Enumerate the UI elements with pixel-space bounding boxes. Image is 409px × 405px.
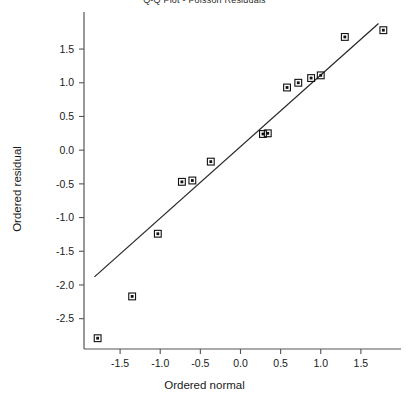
y-tick-label: -1.5 <box>56 245 74 257</box>
data-point-marker <box>380 27 387 34</box>
qq-reference-line <box>94 23 378 276</box>
y-tick-label: 1.0 <box>59 76 74 88</box>
data-point-marker <box>179 178 186 185</box>
x-tick-label: 1.0 <box>313 357 328 369</box>
x-tick-label: 0.5 <box>273 357 288 369</box>
tick-marks <box>79 49 361 354</box>
y-axis-label: Ordered residual <box>11 109 23 269</box>
reference-line <box>94 23 378 276</box>
plot-canvas: -1.5-1.0-0.50.00.51.01.51.51.00.50.0-0.5… <box>0 0 409 405</box>
axes <box>84 12 401 349</box>
y-tick-label: -2.0 <box>56 279 74 291</box>
y-tick-label: -0.5 <box>56 178 74 190</box>
y-tick-label: -1.0 <box>56 211 74 223</box>
data-point-marker <box>284 84 291 91</box>
x-tick-label: -0.5 <box>191 357 209 369</box>
x-axis-label: Ordered normal <box>0 379 409 391</box>
data-point-marker <box>129 293 136 300</box>
data-point-marker <box>295 79 302 86</box>
y-tick-label: 0.0 <box>59 144 74 156</box>
data-point-marker <box>308 75 315 82</box>
x-tick-label: -1.0 <box>151 357 169 369</box>
data-point-marker <box>207 158 214 165</box>
y-tick-label: -2.5 <box>56 312 74 324</box>
x-tick-label: 0.0 <box>233 357 248 369</box>
y-tick-label: 0.5 <box>59 110 74 122</box>
data-point-marker <box>94 335 101 342</box>
qq-plot-figure: Q-Q Plot - Poisson Residuals -1.5-1.0-0.… <box>0 0 409 405</box>
x-tick-label: 1.5 <box>354 357 369 369</box>
data-point-marker <box>341 34 348 41</box>
data-points <box>94 27 387 342</box>
data-point-marker <box>189 177 196 184</box>
data-point-marker <box>154 230 161 237</box>
y-tick-label: 1.5 <box>59 43 74 55</box>
tick-labels: -1.5-1.0-0.50.00.51.01.51.51.00.50.0-0.5… <box>56 43 368 369</box>
x-tick-label: -1.5 <box>111 357 129 369</box>
